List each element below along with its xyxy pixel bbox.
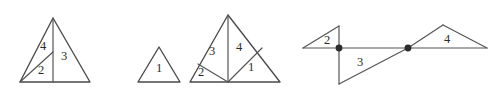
zigzag-triangle-chain-region-label-3: 4 [444,32,451,46]
zigzag-triangle-chain-segment-5 [408,25,443,48]
subdivided-triangle-left-region-label-2: 3 [61,49,67,63]
zigzag-triangle-chain-region-label-1: 2 [324,33,330,47]
subdivided-triangle-left-region-label-3: 2 [38,63,44,77]
subdivided-triangle-left-segment-2 [20,52,53,82]
zigzag-triangle-chain-segment-4 [339,48,408,84]
labels-group: 43213421234 [38,32,451,79]
subdivided-triangle-left-region-label-1: 4 [40,39,47,53]
zigzag-triangle-chain-vertex-dot-1 [336,45,343,52]
zigzag-triangle-chain [303,25,487,84]
subdivided-triangle-left [20,18,90,82]
subdivided-triangle-right-segment-3 [228,48,262,82]
geometry-figure-canvas: 43213421234 [0,0,502,99]
zigzag-triangle-chain-segment-2 [303,26,339,48]
zigzag-triangle-chain-vertex-dot-2 [405,45,412,52]
zigzag-triangle-chain-region-label-2: 3 [357,55,363,69]
subdivided-triangle-right-region-label-1: 3 [209,44,215,58]
subdivided-triangle-right-region-label-3: 2 [198,65,204,79]
subdivided-triangle-right-region-label-4: 1 [248,60,254,74]
subdivided-triangle-right-region-label-2: 4 [236,40,243,54]
plain-triangle-middle-region-label-1: 1 [156,61,162,75]
